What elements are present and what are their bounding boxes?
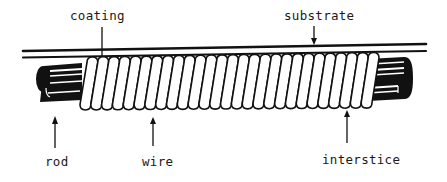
- rod-left: [36, 63, 82, 102]
- label-wire: wire: [142, 155, 173, 169]
- label-rod: rod: [45, 155, 68, 169]
- label-coating: coating: [70, 9, 125, 23]
- label-substrate: substrate: [284, 9, 354, 23]
- wire-coil: [80, 52, 379, 110]
- label-interstice: interstice: [322, 153, 400, 167]
